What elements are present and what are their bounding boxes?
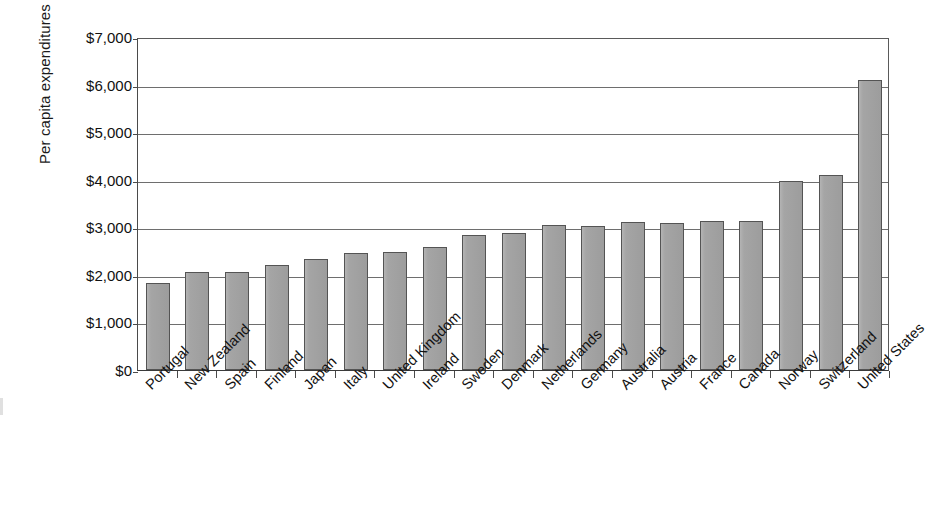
x-category-label: Italy — [341, 363, 370, 392]
bar-chart-figure: Per capita expenditures $0$1,000$2,000$3… — [0, 0, 931, 510]
scan-artifact — [0, 398, 3, 415]
x-category-label: Spain — [222, 356, 259, 393]
x-axis-category-labels: PortugalNew ZealandSpainFinlandJapanItal… — [0, 0, 931, 510]
x-category-label: Japan — [301, 354, 340, 393]
x-category-label: France — [697, 350, 740, 393]
x-category-label: Canada — [736, 346, 783, 393]
x-category-label: Norway — [776, 347, 821, 392]
x-category-label: Portugal — [143, 344, 192, 393]
x-category-label: Finland — [262, 348, 306, 392]
x-category-label: Sweden — [459, 345, 507, 393]
